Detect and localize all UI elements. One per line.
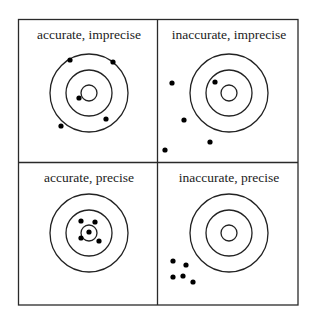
panel-inaccurate-precise: inaccurate, precise <box>170 170 279 285</box>
shot-dot <box>170 274 175 279</box>
shot-dot <box>180 273 185 278</box>
shot-dot <box>170 258 175 263</box>
target-ring <box>190 54 268 132</box>
target-icon <box>190 54 268 132</box>
shot-dot <box>207 139 212 144</box>
panel-inaccurate-imprecise: inaccurate, imprecise <box>162 27 286 153</box>
accuracy-precision-diagram: accurate, imprecise inaccurate, imprecis… <box>0 0 314 323</box>
shot-dot <box>169 80 174 85</box>
shot-dot <box>92 219 97 224</box>
shot-dots <box>58 57 115 128</box>
target-ring <box>206 210 252 256</box>
shot-dot <box>190 279 195 284</box>
target-ring <box>66 70 112 116</box>
target-ring <box>206 70 252 116</box>
panel-label: accurate, imprecise <box>37 27 141 42</box>
shot-dot <box>212 79 217 84</box>
target-ring <box>221 85 237 101</box>
shot-dot <box>58 123 63 128</box>
target-icon <box>190 194 268 272</box>
shot-dot <box>76 95 81 100</box>
shot-dot <box>181 117 186 122</box>
target-ring <box>81 85 97 101</box>
shot-dot <box>110 59 115 64</box>
panel-label: inaccurate, imprecise <box>172 27 287 42</box>
shot-dot <box>103 116 108 121</box>
target-ring <box>50 54 128 132</box>
target-icon <box>50 54 128 132</box>
shot-dot <box>96 238 101 243</box>
shot-dots <box>170 258 195 284</box>
shot-dot <box>67 57 72 62</box>
shot-dot <box>78 218 83 223</box>
panel-label: accurate, precise <box>44 170 134 185</box>
shot-dot <box>162 147 167 152</box>
panel-accurate-precise: accurate, precise <box>44 170 134 272</box>
shot-dot <box>86 229 91 234</box>
target-ring <box>221 225 237 241</box>
panel-label: inaccurate, precise <box>179 170 279 185</box>
panel-accurate-imprecise: accurate, imprecise <box>37 27 141 132</box>
grid-frame <box>19 20 299 306</box>
target-ring <box>190 194 268 272</box>
shot-dot <box>183 262 188 267</box>
shot-dot <box>78 235 83 240</box>
